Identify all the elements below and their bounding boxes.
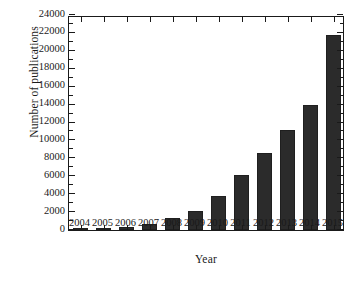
y-minor-tick-19000 [69,59,73,60]
y-tick-8000: 8000 [69,157,75,158]
y-minor-tick-7000 [69,166,73,167]
y-tick-right-24000 [337,14,343,15]
y-tick-label-22000: 22000 [11,25,65,36]
x-tick-top-2005 [104,17,105,22]
y-minor-tick-right-17000 [340,77,344,78]
y-minor-tick-5000 [69,184,73,185]
y-tick-right-4000 [337,193,343,194]
y-tick-label-12000: 12000 [11,115,65,126]
y-minor-tick-right-13000 [340,113,344,114]
y-tick-label-4000: 4000 [11,187,65,198]
y-tick-label-20000: 20000 [11,43,65,54]
y-tick-right-2000 [337,211,343,212]
y-tick-label-0: 0 [11,223,65,234]
bar-2014 [303,105,317,230]
y-tick-14000: 14000 [69,104,75,105]
y-tick-4000: 4000 [69,193,75,194]
x-tick-top-2010 [219,17,220,22]
y-minor-tick-15000 [69,95,73,96]
plot-area: 0200040006000800010000120001400016000180… [68,16,344,231]
y-minor-tick-11000 [69,130,73,131]
y-minor-tick-right-11000 [340,130,344,131]
x-tick-top-2007 [150,17,151,22]
y-tick-right-14000 [337,104,343,105]
y-tick-right-6000 [337,175,343,176]
y-tick-right-10000 [337,139,343,140]
y-tick-16000: 16000 [69,86,75,87]
y-minor-tick-right-19000 [340,59,344,60]
y-minor-tick-right-23000 [340,23,344,24]
y-tick-right-20000 [337,50,343,51]
y-tick-2000: 2000 [69,211,75,212]
y-tick-label-8000: 8000 [11,151,65,162]
y-minor-tick-3000 [69,202,73,203]
x-tick-top-2006 [127,17,128,22]
y-tick-right-22000 [337,32,343,33]
y-minor-tick-21000 [69,41,73,42]
y-tick-right-12000 [337,122,343,123]
y-tick-24000: 24000 [69,14,75,15]
y-minor-tick-right-3000 [340,202,344,203]
y-tick-18000: 18000 [69,68,75,69]
y-tick-label-24000: 24000 [11,8,65,19]
y-tick-right-18000 [337,68,343,69]
y-tick-6000: 6000 [69,175,75,176]
x-tick-top-2008 [173,17,174,22]
y-tick-label-10000: 10000 [11,133,65,144]
y-minor-tick-23000 [69,23,73,24]
y-tick-20000: 20000 [69,50,75,51]
x-tick-top-2014 [311,17,312,22]
x-tick-top-2012 [265,17,266,22]
y-tick-right-16000 [337,86,343,87]
x-tick-top-2013 [288,17,289,22]
y-tick-label-14000: 14000 [11,97,65,108]
x-tick-top-2011 [242,17,243,22]
x-tick-top-2015 [334,17,335,22]
y-tick-label-18000: 18000 [11,61,65,72]
y-minor-tick-right-5000 [340,184,344,185]
x-axis-title: Year [68,253,344,265]
x-tick-top-2004 [81,17,82,22]
bar-2013 [280,130,294,230]
x-tick-top-2009 [196,17,197,22]
y-tick-right-8000 [337,157,343,158]
x-tick-label-2015: 2015 [313,217,353,228]
y-minor-tick-17000 [69,77,73,78]
y-tick-label-16000: 16000 [11,79,65,90]
y-tick-10000: 10000 [69,139,75,140]
publications-bar-chart: Number of publications 02000400060008000… [0,0,360,282]
y-minor-tick-13000 [69,113,73,114]
y-tick-right-0 [337,229,343,230]
y-minor-tick-right-21000 [340,41,344,42]
y-tick-12000: 12000 [69,122,75,123]
y-minor-tick-right-7000 [340,166,344,167]
bar-2015 [326,35,340,230]
bar-series [69,17,343,230]
y-tick-22000: 22000 [69,32,75,33]
y-tick-label-2000: 2000 [11,205,65,216]
y-minor-tick-9000 [69,148,73,149]
y-tick-label-6000: 6000 [11,169,65,180]
y-minor-tick-right-15000 [340,95,344,96]
y-minor-tick-right-9000 [340,148,344,149]
y-tick-0: 0 [69,229,75,230]
